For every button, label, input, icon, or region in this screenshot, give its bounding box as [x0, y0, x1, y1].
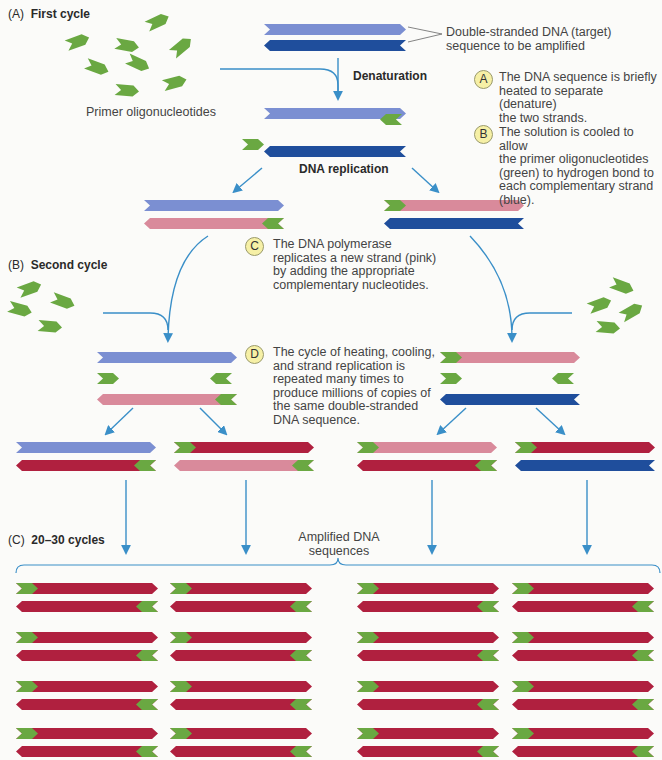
- dna-strand: [16, 681, 158, 692]
- dna-strand: [16, 699, 158, 710]
- step-badge-a: A: [474, 70, 493, 89]
- dna-strand: [357, 460, 497, 471]
- free-primer-icon: [114, 38, 140, 53]
- section-b-title: (B) Second cycle: [8, 258, 107, 272]
- dna-strand: [512, 728, 654, 739]
- dna-strand: [264, 146, 406, 157]
- dna-strand: [170, 681, 312, 692]
- dna-strand: [170, 650, 312, 661]
- dna-strand: [357, 601, 499, 612]
- dna-strand: [170, 728, 312, 739]
- dna-strand: [16, 601, 158, 612]
- step-a-text: The DNA sequence is briefly heated to se…: [499, 71, 662, 125]
- free-primer-icon: [169, 35, 194, 59]
- dna-strand: [264, 24, 406, 35]
- dna-strand: [440, 352, 580, 363]
- dna-replication-label: DNA replication: [299, 162, 389, 176]
- arrow-b-r1: [440, 408, 466, 432]
- dna-strand: [16, 728, 158, 739]
- dna-strand: [357, 681, 499, 692]
- step-d-text: The cycle of heating, cooling, and stran…: [273, 346, 435, 427]
- dna-strand: [515, 442, 655, 453]
- dna-strand: [170, 583, 312, 594]
- dna-strand: [174, 442, 314, 453]
- amplified-brace: [16, 558, 660, 573]
- arrow-primers-right-in: [512, 313, 572, 330]
- bound-primer: [552, 373, 574, 384]
- free-primer-icon: [609, 277, 635, 296]
- dna-strand: [97, 394, 237, 405]
- free-primer-icon: [7, 301, 33, 318]
- dna-strand: [144, 200, 284, 211]
- dna-strand: [512, 699, 654, 710]
- step-badge-c: C: [245, 237, 264, 256]
- dna-strand: [170, 746, 312, 757]
- arrow-to-right-product: [412, 168, 436, 190]
- dna-strand: [512, 746, 654, 757]
- denaturation-label: Denaturation: [353, 69, 427, 83]
- free-primer-icon: [587, 295, 613, 314]
- arrow-primers-to-denaturation: [220, 69, 338, 96]
- arrow-cycle2-right: [470, 236, 512, 338]
- free-primer-icon: [145, 11, 171, 31]
- step-badge-d: D: [245, 345, 264, 364]
- free-primer-icon: [17, 279, 43, 298]
- free-primer-icon: [115, 84, 140, 97]
- arrow-b-l2: [200, 408, 224, 432]
- dna-strand: [16, 746, 158, 757]
- dna-strand: [170, 632, 312, 643]
- bound-primer: [97, 373, 119, 384]
- free-primer-icon: [125, 53, 151, 73]
- arrow-primers-left-in: [103, 313, 168, 330]
- free-primer-icon: [162, 74, 188, 91]
- dna-strand: [174, 460, 314, 471]
- dna-strand: [512, 681, 654, 692]
- dna-strand: [357, 632, 499, 643]
- dna-strand: [16, 442, 156, 453]
- primers-label: Primer oligonucleotides: [86, 106, 216, 120]
- arrow-b-l1: [108, 408, 133, 432]
- dna-strand: [357, 728, 499, 739]
- step-badge-b: B: [474, 125, 493, 144]
- free-primer-icon: [596, 321, 621, 334]
- dna-strand: [97, 352, 237, 363]
- dna-strand: [144, 218, 284, 229]
- dna-strand: [512, 601, 654, 612]
- free-primer-icon: [50, 292, 76, 311]
- dna-strand: [170, 699, 312, 710]
- dna-strand: [512, 650, 654, 661]
- dna-strand: [357, 746, 499, 757]
- arrow-to-left-product: [236, 168, 262, 190]
- dna-strand: [357, 583, 499, 594]
- dna-strand: [515, 460, 655, 471]
- dna-strand: [357, 650, 499, 661]
- amplified-label: Amplified DNA sequences: [298, 531, 380, 558]
- step-c-text: The DNA polymerase replicates a new stra…: [273, 238, 436, 292]
- step-b-text: The solution is cooled to allow the prim…: [499, 126, 662, 207]
- arrow-b-r2: [536, 408, 562, 432]
- dna-strand: [16, 650, 158, 661]
- free-primer-icon: [65, 32, 91, 51]
- free-primer-icon: [38, 320, 63, 333]
- dna-strand: [512, 583, 654, 594]
- section-a-title: (A) First cycle: [8, 7, 90, 21]
- dna-strand: [16, 583, 158, 594]
- dna-strand: [264, 40, 406, 51]
- dna-strand: [170, 601, 312, 612]
- target-pointer-lines: [408, 27, 442, 42]
- free-primer-icon: [84, 58, 110, 77]
- bound-primer: [210, 373, 232, 384]
- bound-primer: [440, 373, 462, 384]
- dna-strand: [16, 632, 158, 643]
- dna-strand: [512, 632, 654, 643]
- dna-strand: [357, 699, 499, 710]
- dna-strand: [16, 460, 156, 471]
- dna-strand: [384, 218, 524, 229]
- dna-strand: [440, 394, 580, 405]
- arrow-cycle2-left: [168, 236, 208, 338]
- free-primer-icon: [619, 301, 645, 323]
- bound-primer: [242, 139, 264, 150]
- section-c-title: (C) 20–30 cycles: [8, 533, 105, 547]
- dna-strand: [357, 442, 497, 453]
- target-label: Double-stranded DNA (target) sequence to…: [446, 26, 611, 53]
